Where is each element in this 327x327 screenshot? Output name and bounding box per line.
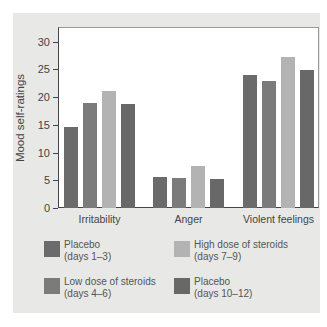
- bar: [153, 177, 167, 208]
- legend-line1: Placebo: [64, 239, 111, 251]
- legend-swatch: [44, 278, 60, 294]
- x-tick-label: Irritability: [78, 213, 120, 225]
- bar: [243, 75, 257, 208]
- legend-label: High dose of steroids(days 7–9): [194, 239, 288, 263]
- y-tick: [53, 208, 58, 209]
- legend-line2: (days 10–12): [194, 288, 252, 300]
- y-tick: [53, 97, 58, 98]
- legend-line1: Placebo: [194, 276, 252, 288]
- bar: [210, 179, 224, 208]
- y-tick-label: 10: [30, 147, 50, 159]
- bar: [300, 70, 314, 208]
- y-tick: [53, 153, 58, 154]
- legend-swatch: [174, 241, 190, 257]
- legend-swatch: [44, 241, 60, 257]
- bar: [191, 166, 205, 208]
- y-tick-label: 5: [30, 174, 50, 186]
- y-tick-label: 15: [30, 119, 50, 131]
- bar: [172, 178, 186, 208]
- legend-swatch: [174, 278, 190, 294]
- y-tick: [53, 180, 58, 181]
- legend-label: Placebo(days 10–12): [194, 276, 252, 300]
- bar: [262, 81, 276, 208]
- bar: [121, 104, 135, 208]
- bar: [102, 91, 116, 208]
- legend-label: Low dose of steroids(days 4–6): [64, 276, 156, 300]
- bar: [64, 127, 78, 208]
- y-tick-label: 0: [30, 202, 50, 214]
- bar: [83, 103, 97, 208]
- legend-label: Placebo(days 1–3): [64, 239, 111, 263]
- legend-line2: (days 7–9): [194, 251, 288, 263]
- legend-line2: (days 1–3): [64, 251, 111, 263]
- legend-line1: Low dose of steroids: [64, 276, 156, 288]
- bar: [281, 57, 295, 208]
- plot-area: [58, 27, 319, 208]
- y-tick-label: 20: [30, 91, 50, 103]
- x-tick-label: Violent feelings: [243, 213, 314, 225]
- y-tick: [53, 42, 58, 43]
- y-tick-label: 25: [30, 63, 50, 75]
- y-tick: [53, 125, 58, 126]
- legend-line2: (days 4–6): [64, 288, 156, 300]
- legend-line1: High dose of steroids: [194, 239, 288, 251]
- y-tick-label: 30: [30, 36, 50, 48]
- y-tick: [53, 69, 58, 70]
- y-axis-label: Mood self-ratings: [14, 74, 26, 162]
- x-tick-label: Anger: [174, 213, 202, 225]
